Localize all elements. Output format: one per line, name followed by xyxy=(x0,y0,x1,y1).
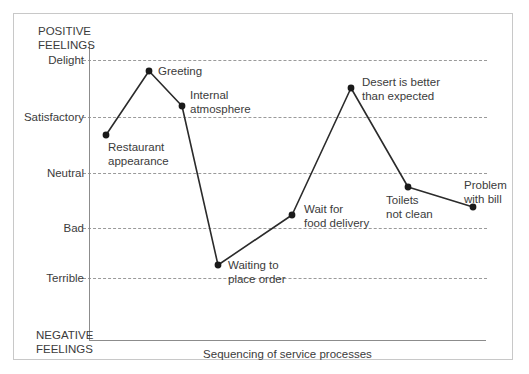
x-axis-caption: Sequencing of service processes xyxy=(89,348,486,360)
series-line xyxy=(106,71,473,265)
chart-screenshot: Delight Satisfactory Neutral Bad Terribl… xyxy=(0,0,529,374)
data-point-marker[interactable] xyxy=(470,204,477,211)
data-point-marker[interactable] xyxy=(179,103,186,110)
data-point-marker[interactable] xyxy=(289,212,296,219)
series-markers xyxy=(103,68,477,269)
data-point-marker[interactable] xyxy=(146,68,153,75)
data-point-marker[interactable] xyxy=(215,262,222,269)
data-point-marker[interactable] xyxy=(103,132,110,139)
series-chart xyxy=(0,0,529,374)
data-point-marker[interactable] xyxy=(405,184,412,191)
data-point-marker[interactable] xyxy=(348,85,355,92)
